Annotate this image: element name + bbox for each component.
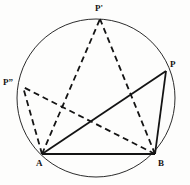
segment-b-to-p xyxy=(155,71,166,154)
segment-b-to-p-prime xyxy=(100,19,155,154)
geometry-figure: P' P P” A B xyxy=(0,0,190,185)
segment-a-to-p-double-prime xyxy=(23,87,42,154)
segment-b-to-p-double-prime xyxy=(23,87,155,154)
vertex-label-b: B xyxy=(158,159,164,168)
vertex-label-p-double-prime: P” xyxy=(3,78,13,87)
vertex-label-p: P xyxy=(170,60,176,69)
vertex-label-p-prime: P' xyxy=(95,4,103,13)
vertex-label-a: A xyxy=(36,159,43,168)
